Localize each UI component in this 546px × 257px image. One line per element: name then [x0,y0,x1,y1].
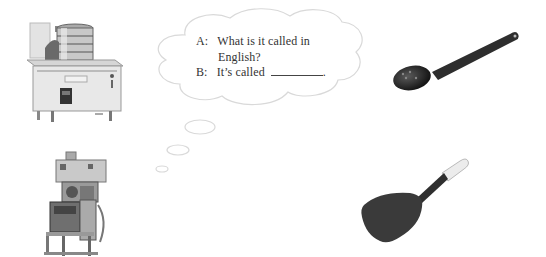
mixer-machine-icon [42,150,112,257]
question-text: What is it called in [217,34,310,48]
dialog-line-b: B: It’s called . [196,65,326,80]
ladle-icon [392,26,522,96]
answer-period: . [323,65,326,79]
dialog-line-a: A: What is it called in [196,34,310,49]
answer-text: It’s called [217,65,265,79]
spatula-icon [360,155,470,245]
speaker-a-label: A: [196,34,208,48]
answer-blank[interactable] [271,65,323,76]
dialog-line-a-cont: English? [218,50,261,65]
question-text-cont: English? [218,50,261,64]
speaker-b-label: B: [196,65,208,79]
steamer-stove-icon [25,18,125,123]
